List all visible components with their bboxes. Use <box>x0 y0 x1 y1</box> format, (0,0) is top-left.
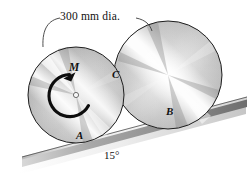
dimension-label: 300 mm dia. <box>60 11 120 23</box>
leader-left <box>43 18 60 47</box>
point-label-a: A <box>76 130 83 141</box>
figure-canvas <box>0 0 249 174</box>
mechanics-figure: 300 mm dia. M C B A 15° <box>0 0 249 174</box>
angle-label: 15° <box>104 150 119 161</box>
disk-center-hub <box>73 92 78 97</box>
point-label-c: C <box>112 69 119 80</box>
point-label-b: B <box>166 106 173 117</box>
moment-label: M <box>69 62 79 74</box>
